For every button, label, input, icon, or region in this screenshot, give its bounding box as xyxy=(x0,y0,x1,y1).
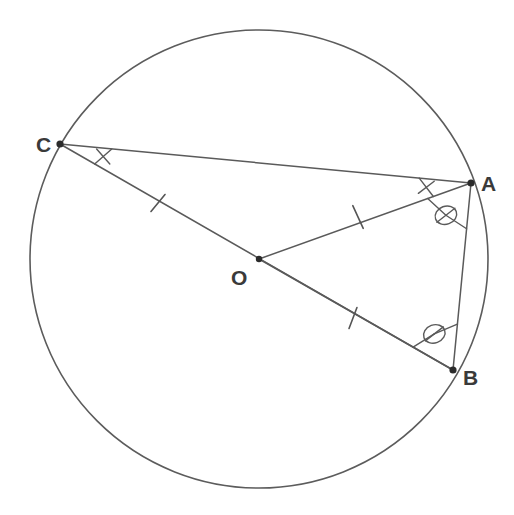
angle-mark-at-C-tick xyxy=(97,149,110,164)
angle-mark-OBA-slash xyxy=(425,327,443,341)
geometry-figure: ABCO xyxy=(0,0,514,515)
point-label-C: C xyxy=(36,133,51,156)
point-label-A: A xyxy=(481,172,496,195)
angle-mark-OBA-leg-2 xyxy=(434,324,457,334)
angle-markers xyxy=(95,149,467,347)
vertex-dot-C xyxy=(56,140,63,147)
geometry-canvas: ABCO xyxy=(0,0,514,515)
segment-OB xyxy=(259,259,453,370)
segment-CA xyxy=(60,144,471,183)
vertex-dot-O xyxy=(256,256,262,262)
point-label-O: O xyxy=(231,266,247,289)
vertex-dot-A xyxy=(467,179,474,186)
point-label-B: B xyxy=(463,366,478,389)
angle-mark-at-A-tick xyxy=(418,181,434,193)
vertex-dot-B xyxy=(449,366,456,373)
point-labels: ABCO xyxy=(36,133,496,389)
